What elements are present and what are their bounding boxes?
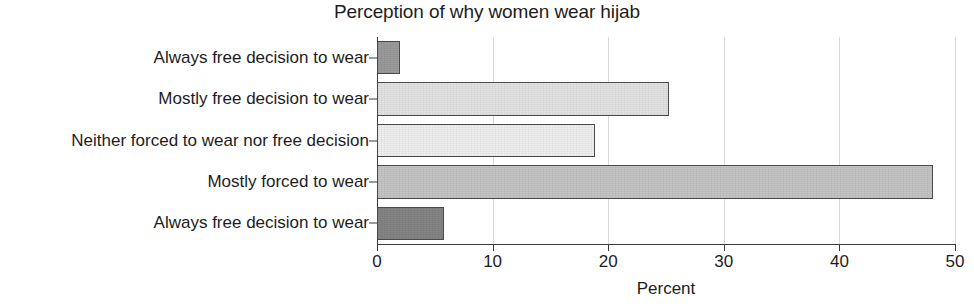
x-axis-title: Percent [377, 279, 955, 299]
bar-row [377, 37, 955, 78]
x-axis-tick [955, 244, 956, 251]
x-axis-tick [724, 244, 725, 251]
x-axis-tick-label: 40 [830, 252, 849, 272]
y-axis-labels: Always free decision to wearMostly free … [0, 37, 369, 244]
bar [377, 124, 595, 157]
x-axis-tick-label: 0 [372, 252, 381, 272]
y-axis-tick [369, 223, 377, 224]
bar-chart: Perception of why women wear hijab Alway… [0, 0, 974, 306]
y-axis-tick-label: Mostly forced to wear [207, 172, 369, 192]
x-axis-tick [493, 244, 494, 251]
gridline-x [955, 37, 956, 244]
y-axis-tick [369, 99, 377, 100]
y-axis-tick-label: Always free decision to wear [154, 213, 369, 233]
x-axis-tick [377, 244, 378, 251]
bar [377, 41, 400, 74]
y-axis-tick [369, 57, 377, 58]
x-axis-tick-label: 30 [714, 252, 733, 272]
chart-title: Perception of why women wear hijab [0, 1, 974, 23]
bar-row [377, 161, 955, 202]
bar [377, 82, 669, 115]
bar [377, 207, 444, 240]
bar-row [377, 120, 955, 161]
x-axis-tick-label: 50 [946, 252, 965, 272]
y-axis-tick [369, 181, 377, 182]
bar-row [377, 203, 955, 244]
y-axis-tick-label: Always free decision to wear [154, 48, 369, 68]
x-axis-line [377, 244, 956, 245]
x-axis-tick-label: 20 [599, 252, 618, 272]
bar-row [377, 78, 955, 119]
y-axis-tick-label: Neither forced to wear nor free decision [71, 131, 369, 151]
x-axis-tick [608, 244, 609, 251]
plot-area [377, 37, 955, 244]
x-axis-tick-label: 10 [483, 252, 502, 272]
bar [377, 165, 933, 198]
y-axis-tick [369, 140, 377, 141]
y-axis-tick-label: Mostly free decision to wear [158, 89, 369, 109]
x-axis-tick [839, 244, 840, 251]
